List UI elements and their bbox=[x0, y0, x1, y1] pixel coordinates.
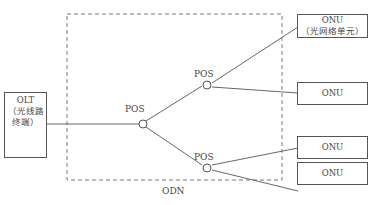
onu-box-2: ONU bbox=[297, 82, 368, 105]
olt-title: OLT bbox=[5, 95, 46, 106]
onu-1-title: ONU bbox=[298, 15, 367, 26]
onu-3-title: ONU bbox=[298, 137, 367, 158]
splitter-label-3: POS bbox=[194, 152, 214, 163]
onu-box-3: ONU bbox=[297, 136, 368, 159]
onu-2-title: ONU bbox=[298, 83, 367, 104]
olt-box: OLT （光线路 终端） bbox=[4, 92, 47, 158]
splitter-label-2: POS bbox=[194, 69, 214, 80]
pon-topology-diagram: OLT （光线路 终端） POS POS POS ONU （光网络单元） ONU… bbox=[0, 0, 373, 205]
splitter-node-2 bbox=[203, 81, 211, 89]
odn-dashed-boundary bbox=[67, 14, 282, 180]
onu-box-4: ONU bbox=[297, 162, 368, 185]
onu-box-1: ONU （光网络单元） bbox=[297, 14, 368, 38]
olt-desc-2: 终端） bbox=[5, 117, 46, 128]
onu-1-desc: （光网络单元） bbox=[298, 26, 367, 37]
splitter-node-1 bbox=[139, 120, 147, 128]
splitter-label-1: POS bbox=[125, 104, 145, 115]
splitter-node-3 bbox=[203, 164, 211, 172]
onu-4-title: ONU bbox=[298, 163, 367, 184]
olt-desc-1: （光线路 bbox=[5, 106, 46, 117]
odn-label: ODN bbox=[162, 186, 184, 197]
